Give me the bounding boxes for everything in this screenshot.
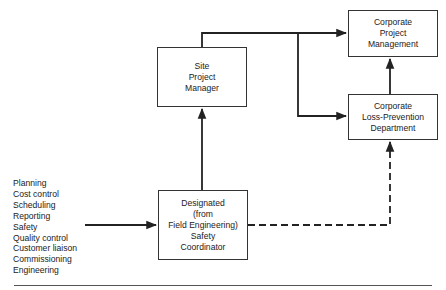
- edge-site-pm-to-corp-lpd: [298, 33, 346, 116]
- node-label: Safety: [191, 231, 215, 242]
- responsibility-item: Engineering: [13, 265, 77, 276]
- corporate-project-management-box: Corporate Project Management: [348, 10, 438, 57]
- safety-coordinator-box: Designated (from Field Engineering) Safe…: [158, 190, 248, 260]
- node-label: Corporate: [374, 17, 412, 28]
- node-label: Department: [371, 123, 416, 134]
- site-project-manager-box: Site Project Manager: [157, 47, 247, 107]
- node-label: Designated: [181, 198, 224, 209]
- responsibility-item: Scheduling: [13, 200, 77, 211]
- corporate-loss-prevention-box: Corporate Loss-Prevention Department: [348, 94, 438, 140]
- bottom-divider: [14, 285, 432, 286]
- responsibility-item: Planning: [13, 178, 77, 189]
- responsibility-item: Commissioning: [13, 254, 77, 265]
- edge-safety-coord-to-corp-lpd-dashed: [248, 142, 390, 225]
- responsibility-item: Customer liaison: [13, 243, 77, 254]
- node-label: Site: [195, 61, 210, 72]
- responsibility-item: Quality control: [13, 233, 77, 244]
- node-label: Project: [189, 72, 216, 83]
- responsibility-item: Safety: [13, 222, 77, 233]
- responsibility-item: Cost control: [13, 189, 77, 200]
- node-label: (from: [193, 209, 213, 220]
- node-label: Field Engineering): [168, 220, 238, 231]
- node-label: Corporate: [374, 101, 412, 112]
- responsibilities-list: Planning Cost control Scheduling Reporti…: [13, 178, 77, 276]
- node-label: Manager: [185, 83, 219, 94]
- node-label: Project: [380, 28, 407, 39]
- node-label: Coordinator: [181, 242, 226, 253]
- edge-site-pm-to-corp-pm: [202, 33, 346, 47]
- responsibility-item: Reporting: [13, 211, 77, 222]
- node-label: Management: [368, 39, 418, 50]
- node-label: Loss-Prevention: [362, 112, 424, 123]
